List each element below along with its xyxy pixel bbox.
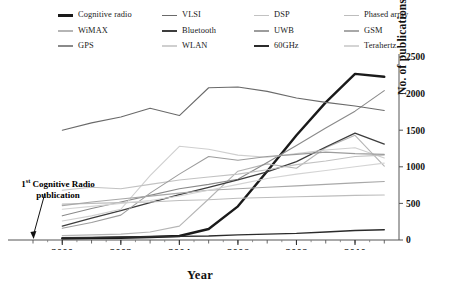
x-axis-tick-label: 2010	[344, 246, 367, 250]
y-axis-tick-label: 0	[406, 235, 411, 245]
y-axis-tick-label: 500	[406, 199, 421, 209]
plot-area: 0500100015002000250020002002200420062008…	[0, 50, 453, 250]
y-axis-title: No. of publications	[396, 0, 408, 95]
legend-item[interactable]: WiMAX	[58, 23, 162, 38]
x-axis-tick-label: 2000	[51, 246, 74, 250]
axes-layer	[8, 54, 403, 245]
legend-item-label: GSM	[364, 27, 382, 35]
chart-figure: Cognitive radioWiMAXGPSVLSIBluetoothWLAN…	[0, 0, 453, 294]
legend-line-swatch	[58, 30, 73, 32]
legend-item-label: Bluetooth	[182, 27, 216, 35]
legend-item[interactable]: DSP	[254, 8, 344, 23]
legend-line-swatch	[254, 45, 269, 47]
legend-line-swatch	[162, 30, 177, 32]
legend-line-swatch	[58, 45, 73, 47]
chart-legend: Cognitive radioWiMAXGPSVLSIBluetoothWLAN…	[58, 8, 418, 54]
legend-item[interactable]: Phased array	[344, 8, 438, 23]
legend-line-swatch	[58, 14, 73, 17]
annotation-arrow-head	[30, 231, 36, 239]
x-axis-tick-label: 2006	[227, 246, 250, 250]
legend-line-swatch	[344, 30, 359, 32]
legend-item-label: UWB	[274, 27, 294, 35]
tick-labels-layer: 0500100015002000250020002002200420062008…	[51, 52, 425, 250]
legend-item-label: WiMAX	[78, 27, 108, 35]
y-axis-tick-label: 2500	[406, 52, 425, 62]
legend-item-label: DSP	[274, 11, 290, 19]
legend-line-swatch	[254, 15, 269, 17]
legend-line-swatch	[254, 30, 269, 32]
legend-item-label: VLSI	[182, 11, 201, 19]
legend-line-swatch	[162, 15, 177, 17]
legend-item[interactable]: Bluetooth	[162, 23, 254, 38]
y-axis-tick-label: 1000	[406, 162, 425, 172]
y-axis-tick-label: 1500	[406, 126, 425, 136]
series-layer	[62, 74, 384, 239]
legend-line-swatch	[344, 45, 359, 47]
line-chart-svg: 0500100015002000250020002002200420062008…	[0, 50, 453, 250]
legend-item[interactable]: Cognitive radio	[58, 8, 162, 23]
legend-item-label: Cognitive radio	[78, 11, 132, 19]
x-axis-tick-label: 2004	[168, 246, 191, 250]
y-axis-tick-label: 2000	[406, 89, 425, 99]
x-axis-tick-label: 2002	[110, 246, 133, 250]
first-cognitive-radio-publication-annotation: 1st Cognitive Radio publication	[2, 177, 114, 200]
legend-item[interactable]: VLSI	[162, 8, 254, 23]
legend-line-swatch	[344, 15, 359, 17]
annotation-line2: publication	[36, 190, 80, 200]
legend-item[interactable]: GSM	[344, 23, 438, 38]
legend-item[interactable]: UWB	[254, 23, 344, 38]
legend-line-swatch	[162, 45, 177, 47]
series-line	[62, 230, 384, 238]
y-axis-title-label: No. of publications	[396, 0, 408, 95]
annotation-rest: Cognitive Radio	[30, 179, 95, 189]
x-axis-title: Year	[0, 268, 400, 283]
x-axis-tick-label: 2008	[285, 246, 308, 250]
